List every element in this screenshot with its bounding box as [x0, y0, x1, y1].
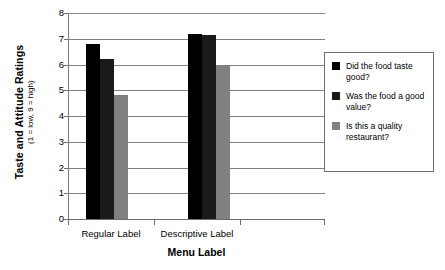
x-tick-1	[154, 219, 155, 225]
y-tick-label-4: 4	[48, 111, 64, 121]
plot-area	[68, 13, 325, 219]
y-tick-label-0: 0	[48, 214, 64, 224]
x-axis-ticks	[68, 219, 325, 225]
y-axis-title: Taste and Attitude Ratings (1 = low, 9 =…	[2, 0, 46, 225]
bar-1-2	[216, 66, 230, 219]
y-axis-title-subtitle: (1 = low, 9 = high)	[26, 45, 35, 179]
legend-swatch-icon-1	[332, 92, 340, 100]
y-tick-label-8: 8	[48, 8, 64, 18]
bar-chart-figure: Taste and Attitude Ratings (1 = low, 9 =…	[0, 0, 445, 270]
legend-label-0: Did the food taste good?	[346, 61, 428, 82]
legend-entry-2: Is this a quality restaurant?	[332, 121, 428, 142]
bar-1-0	[188, 34, 202, 219]
y-tick-label-1: 1	[48, 188, 64, 198]
y-tick-label-6: 6	[48, 60, 64, 70]
legend-swatch-icon-2	[332, 122, 340, 130]
x-tick-3	[324, 219, 325, 225]
legend-label-2: Is this a quality restaurant?	[346, 121, 428, 142]
legend-entry-1: Was the food a good value?	[332, 91, 428, 112]
y-tick-label-7: 7	[48, 34, 64, 44]
bar-1-1	[202, 35, 216, 219]
x-axis-category-label-1: Descriptive Label	[137, 228, 257, 239]
legend-entry-0: Did the food taste good?	[332, 61, 428, 82]
y-axis-title-main: Taste and Attitude Ratings	[13, 45, 25, 179]
y-tick-label-2: 2	[48, 163, 64, 173]
gridline-8	[68, 13, 325, 14]
bar-0-2	[114, 95, 128, 219]
legend-label-1: Was the food a good value?	[346, 91, 428, 112]
x-tick-2	[240, 219, 241, 225]
y-axis-tick-labels: 012345678	[44, 13, 64, 219]
bar-0-1	[100, 59, 114, 219]
chart-legend: Did the food taste good?Was the food a g…	[324, 52, 434, 172]
x-axis-title: Menu Label	[68, 246, 325, 258]
bar-0-0	[86, 44, 100, 219]
legend-swatch-icon-0	[332, 62, 340, 70]
y-tick-label-3: 3	[48, 137, 64, 147]
x-tick-0	[68, 219, 69, 225]
y-tick-label-5: 5	[48, 85, 64, 95]
